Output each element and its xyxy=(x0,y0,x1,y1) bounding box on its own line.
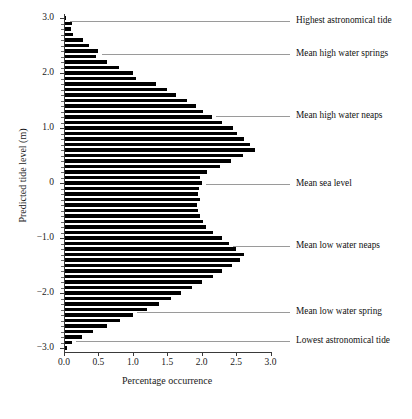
annotation-leader-line xyxy=(216,116,290,117)
histogram-bar xyxy=(64,192,198,195)
x-axis-label: Percentage occurrence xyxy=(0,375,334,386)
histogram-bar xyxy=(64,137,244,140)
annotation-label: Mean high water neaps xyxy=(296,110,382,120)
x-tick-label: 3.0 xyxy=(251,357,291,367)
histogram-bar xyxy=(64,66,119,69)
histogram-bar xyxy=(64,49,98,52)
y-tick-label: −2.0 xyxy=(14,287,54,297)
histogram-bar xyxy=(64,225,206,228)
histogram-bar xyxy=(64,44,89,47)
y-minor-tick-mark xyxy=(61,84,64,85)
histogram-bar xyxy=(64,264,232,267)
histogram-bar xyxy=(64,143,250,146)
y-tick-label: 3.0 xyxy=(14,12,54,22)
histogram-bar xyxy=(64,258,240,261)
histogram-bar xyxy=(64,126,233,129)
histogram-bar xyxy=(64,236,222,239)
histogram-bar xyxy=(64,71,133,74)
x-tick-mark xyxy=(202,352,203,356)
histogram-bar xyxy=(64,27,71,30)
histogram-bar xyxy=(64,198,200,201)
y-minor-tick-mark xyxy=(61,46,64,47)
x-tick-mark xyxy=(271,352,272,356)
y-minor-tick-mark xyxy=(61,106,64,107)
y-minor-tick-mark xyxy=(61,40,64,41)
histogram-bar xyxy=(64,291,181,294)
tide-level-histogram-chart: 0.00.51.01.52.02.53.0 3.02.01.00−1.0−2.0… xyxy=(0,0,412,419)
annotation-leader-line xyxy=(233,246,290,247)
histogram-bar xyxy=(64,324,107,327)
y-minor-tick-mark xyxy=(61,172,64,173)
y-minor-tick-mark xyxy=(61,343,64,344)
histogram-bar xyxy=(64,121,222,124)
annotation-label: Mean low water spring xyxy=(296,306,382,316)
y-tick-mark xyxy=(60,348,64,349)
y-minor-tick-mark xyxy=(61,101,64,102)
histogram-bar xyxy=(64,220,203,223)
x-tick-mark xyxy=(98,352,99,356)
annotation-leader-line xyxy=(70,21,290,22)
histogram-bar xyxy=(64,308,147,311)
histogram-bar xyxy=(64,302,159,305)
histogram-bar xyxy=(64,297,171,300)
y-minor-tick-mark xyxy=(61,150,64,151)
y-minor-tick-mark xyxy=(61,227,64,228)
histogram-bar xyxy=(64,176,200,179)
x-tick-mark xyxy=(236,352,237,356)
y-tick-mark xyxy=(60,293,64,294)
y-minor-tick-mark xyxy=(61,299,64,300)
histogram-bar xyxy=(64,77,136,80)
y-minor-tick-mark xyxy=(61,337,64,338)
y-tick-label: 2.0 xyxy=(14,67,54,77)
histogram-bar xyxy=(64,214,200,217)
y-minor-tick-mark xyxy=(61,194,64,195)
y-minor-tick-mark xyxy=(61,321,64,322)
histogram-bar xyxy=(64,110,203,113)
y-minor-tick-mark xyxy=(61,288,64,289)
histogram-bar xyxy=(64,55,96,58)
y-minor-tick-mark xyxy=(61,332,64,333)
y-minor-tick-mark xyxy=(61,211,64,212)
y-minor-tick-mark xyxy=(61,139,64,140)
x-tick-mark xyxy=(64,352,65,356)
y-minor-tick-mark xyxy=(61,200,64,201)
y-tick-mark xyxy=(60,183,64,184)
histogram-bar xyxy=(64,313,133,316)
histogram-bar xyxy=(64,104,196,107)
histogram-bar xyxy=(64,341,72,344)
histogram-bar xyxy=(64,88,167,91)
histogram-bar xyxy=(64,231,213,234)
y-minor-tick-mark xyxy=(61,117,64,118)
y-minor-tick-mark xyxy=(61,145,64,146)
y-minor-tick-mark xyxy=(61,51,64,52)
y-minor-tick-mark xyxy=(61,134,64,135)
y-minor-tick-mark xyxy=(61,205,64,206)
histogram-bar xyxy=(64,335,82,338)
y-minor-tick-mark xyxy=(61,95,64,96)
y-minor-tick-mark xyxy=(61,277,64,278)
histogram-bar xyxy=(64,286,192,289)
histogram-bar xyxy=(64,165,220,168)
y-minor-tick-mark xyxy=(61,167,64,168)
annotation-label: Mean low water neaps xyxy=(296,240,380,250)
histogram-bar xyxy=(64,280,202,283)
histogram-bar xyxy=(64,181,202,184)
y-minor-tick-mark xyxy=(61,189,64,190)
x-tick-mark xyxy=(133,352,134,356)
y-minor-tick-mark xyxy=(61,161,64,162)
y-minor-tick-mark xyxy=(61,271,64,272)
histogram-bar xyxy=(64,38,83,41)
y-tick-mark xyxy=(60,238,64,239)
y-tick-label: −3.0 xyxy=(14,342,54,352)
y-tick-mark xyxy=(60,73,64,74)
y-minor-tick-mark xyxy=(61,90,64,91)
histogram-bar xyxy=(64,132,237,135)
histogram-bar xyxy=(64,115,212,118)
y-minor-tick-mark xyxy=(61,62,64,63)
histogram-bar xyxy=(64,275,213,278)
histogram-bar xyxy=(64,203,197,206)
y-minor-tick-mark xyxy=(61,79,64,80)
histogram-bar xyxy=(64,269,222,272)
annotation-label: Mean sea level xyxy=(296,178,352,188)
y-minor-tick-mark xyxy=(61,255,64,256)
